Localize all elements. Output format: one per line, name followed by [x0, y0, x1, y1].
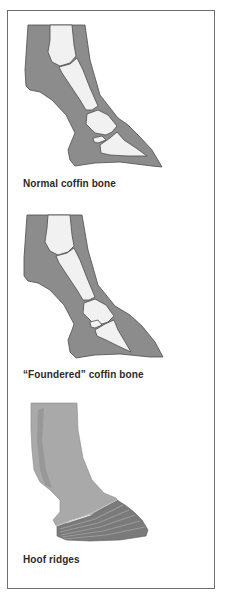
foundered-hoof-tissue — [24, 215, 163, 358]
figure-illustrations — [0, 0, 228, 604]
caption-normal-coffin-bone: Normal coffin bone — [23, 178, 116, 189]
hoof-ridges-illustration — [31, 403, 148, 541]
foundered-cannon-bone — [45, 215, 74, 255]
caption-foundered-coffin-bone: “Foundered” coffin bone — [23, 369, 144, 380]
normal-hoof-illustration — [25, 25, 162, 167]
caption-hoof-ridges: Hoof ridges — [23, 554, 80, 565]
normal-cannon-bone — [48, 25, 76, 66]
foundered-hoof-illustration — [24, 215, 163, 358]
